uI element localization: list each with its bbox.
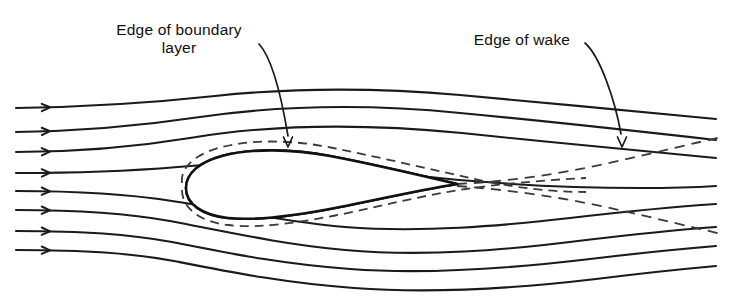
streamlined-body-edge xyxy=(186,150,457,218)
diagram-canvas: Edge of boundary layer Edge of wake xyxy=(0,0,730,296)
boundary-layer-label-line1: Edge of boundary xyxy=(116,21,242,38)
wake-label: Edge of wake xyxy=(474,31,570,48)
streamline xyxy=(16,107,716,140)
fluid-flow-diagram: Edge of boundary layer Edge of wake xyxy=(0,0,730,296)
wake-leader-line xyxy=(585,43,621,134)
wake-edge-upper xyxy=(457,137,722,184)
streamline xyxy=(16,210,716,253)
boundary-layer-label-line2: layer xyxy=(162,39,197,56)
wake-arrow-icon xyxy=(618,137,627,147)
streamline xyxy=(16,126,716,158)
wake-edge-lower xyxy=(457,186,722,234)
